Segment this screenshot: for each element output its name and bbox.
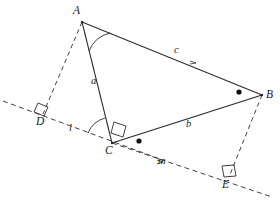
right-angle-marker-at-C (111, 122, 126, 137)
geometry-figure: A B C D E a b c l m (0, 0, 280, 202)
vertex-label-A: A (73, 5, 80, 17)
right-angle-marker-at-E (222, 165, 236, 177)
triangle-side-a (82, 22, 112, 143)
side-label-a: a (91, 76, 96, 87)
line-label-l: l (69, 123, 72, 134)
dot-near-C (136, 138, 141, 143)
vertex-label-E: E (222, 179, 229, 191)
geometry-canvas (0, 0, 280, 202)
side-label-c: c (174, 45, 179, 56)
line-l (3, 101, 160, 159)
dot-near-B (236, 89, 241, 94)
angle-arc-at-C (88, 118, 105, 133)
side-label-b: b (186, 119, 191, 130)
tick-mark-side-c (190, 61, 196, 64)
vertex-point-B (261, 94, 263, 96)
vertex-label-B: B (266, 89, 273, 101)
line-label-m: m (158, 156, 166, 167)
line-m (112, 143, 272, 197)
vertex-label-D: D (36, 116, 44, 128)
perpendicular-segment-AD (43, 22, 82, 114)
vertex-point-A (81, 21, 83, 23)
vertex-label-C: C (105, 145, 113, 157)
angle-arc-at-A (89, 33, 110, 51)
